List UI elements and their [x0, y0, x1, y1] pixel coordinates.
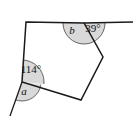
- angle-label-b: b: [69, 24, 75, 36]
- figure-background: [0, 0, 133, 121]
- angle-label-a: a: [21, 85, 27, 97]
- angle-label-114: 114°: [21, 63, 42, 75]
- geometry-figure: b 39° 114° a: [0, 0, 133, 121]
- geometry-diagram-svg: b 39° 114° a: [0, 0, 133, 121]
- angle-label-39: 39°: [85, 22, 100, 34]
